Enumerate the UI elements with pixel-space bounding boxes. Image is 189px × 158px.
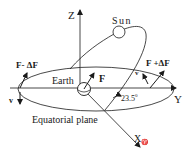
- force-label: F: [99, 73, 105, 84]
- inclination-angle-label: 23.50: [121, 93, 138, 103]
- sun-label: Sun: [112, 15, 132, 26]
- force-minus-label: F- ΔF: [16, 60, 38, 70]
- earth-label: Earth: [52, 75, 74, 86]
- velocity-left-label: v: [9, 96, 13, 105]
- inclination-angle-arc: [113, 95, 121, 98]
- force-plus-label: F +ΔF: [146, 58, 170, 68]
- sun-icon: [113, 26, 125, 38]
- x-axis-label: X♈: [134, 133, 149, 146]
- velocity-right-label: v: [135, 69, 139, 77]
- velocity-right-arrow: [143, 74, 148, 84]
- force-minus-arrow: [20, 73, 27, 88]
- orbit-diagram: Sun Earth F F- ΔF v F +ΔF v 23.50 Z Y X♈…: [0, 0, 189, 158]
- equatorial-plane-label: Equatorial plane: [32, 114, 98, 125]
- y-axis-label: Y: [174, 93, 182, 105]
- z-axis-label: Z: [68, 9, 75, 21]
- equatorial-plane-ellipse: [18, 67, 174, 111]
